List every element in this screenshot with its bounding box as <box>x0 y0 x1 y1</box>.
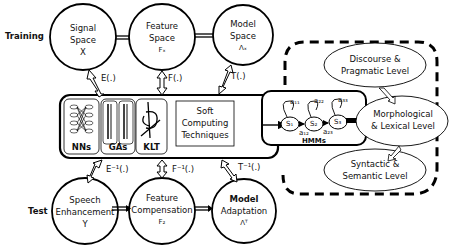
node-line1: Model <box>218 18 268 30</box>
hmms-label: HMMs <box>302 135 326 147</box>
node-line2: Adaptation <box>212 205 276 217</box>
gas-label: GAs <box>103 141 133 153</box>
level-line2: & Lexical Level <box>358 120 448 132</box>
node-line2: Compensation <box>128 204 196 216</box>
node-line2: Space <box>218 30 268 42</box>
training-label: Training <box>5 30 44 42</box>
level-line1: Discourse & <box>330 53 420 65</box>
node-symbol: Λᵀ <box>212 217 276 229</box>
transition-a22: a₂₂ <box>314 95 324 107</box>
soft-computing-title: Soft Computing Techniques <box>176 105 234 141</box>
node-line2: Space <box>137 32 187 44</box>
node-line2: Space <box>58 34 108 46</box>
node-symbol: Y <box>53 218 117 230</box>
node-line1: Signal <box>58 22 108 34</box>
node-line1: Feature <box>128 192 196 204</box>
mapping-t: T(.) <box>231 70 246 82</box>
node-line1: Model <box>212 193 276 205</box>
title-line1: Soft <box>176 105 234 117</box>
morphological-level-text: Morphological & Lexical Level <box>358 108 448 132</box>
node-line1: Feature <box>137 20 187 32</box>
node-symbol: Λₓ <box>218 42 268 54</box>
transition-a11: a₁₁ <box>290 96 300 108</box>
mapping-e-inverse: E⁻¹(.) <box>106 163 129 175</box>
node-line1: Speech <box>53 194 117 206</box>
level-line2: Semantic Level <box>330 170 420 182</box>
test-label: Test <box>28 205 48 217</box>
syntactic-level-text: Syntactic & Semantic Level <box>330 158 420 182</box>
feature-space-text: Feature Space Fₓ <box>137 20 187 56</box>
node-symbol: Fₓ <box>137 44 187 56</box>
model-space-text: Model Space Λₓ <box>218 18 268 54</box>
mapping-f: F(.) <box>168 72 182 84</box>
title-line3: Techniques <box>176 129 234 141</box>
discourse-level-text: Discourse & Pragmatic Level <box>330 53 420 77</box>
state-s2: S₂ <box>310 118 317 130</box>
signal-space-text: Signal Space X <box>58 22 108 58</box>
node-line2: Enhancement <box>53 206 117 218</box>
state-s1: S₁ <box>286 118 293 130</box>
level-line1: Morphological <box>358 108 448 120</box>
nns-label: NNs <box>66 141 97 153</box>
level-line2: Pragmatic Level <box>330 65 420 77</box>
mapping-e: E(.) <box>101 72 116 84</box>
klt-label: KLT <box>137 141 166 153</box>
transition-a33: a₃₃ <box>338 94 348 106</box>
node-symbol: X <box>58 46 108 58</box>
mapping-t-inverse: T⁻¹(.) <box>238 161 260 173</box>
level-line1: Syntactic & <box>330 158 420 170</box>
state-s3: S₃ <box>334 116 341 128</box>
speech-enhancement-text: Speech Enhancement Y <box>53 194 117 230</box>
title-line2: Computing <box>176 117 234 129</box>
node-symbol: F₂ <box>128 216 196 228</box>
model-adaptation-text: Model Adaptation Λᵀ <box>212 193 276 229</box>
feature-compensation-text: Feature Compensation F₂ <box>128 192 196 228</box>
mapping-f-inverse: F⁻¹(.) <box>172 163 194 175</box>
